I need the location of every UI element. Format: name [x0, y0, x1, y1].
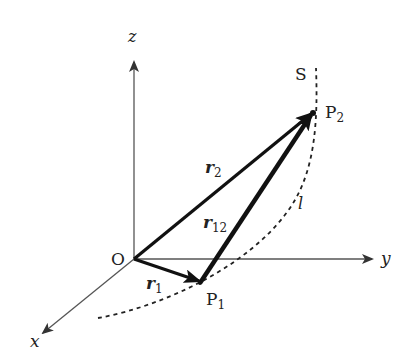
point-p1 [198, 281, 202, 285]
origin-label: O [111, 249, 125, 269]
r12-label: r12 [203, 212, 227, 235]
y-axis-label: y [380, 248, 391, 268]
vector-r12 [200, 115, 311, 283]
curve-s [98, 68, 317, 318]
r2-label: r2 [205, 157, 222, 180]
z-axis-label: z [127, 27, 137, 46]
vector-diagram: z y x O P1 P2 S l r1 r2 r12 [0, 0, 416, 364]
vector-r1 [134, 259, 199, 281]
curve-s-label: S [295, 64, 307, 84]
vector-r2 [134, 114, 311, 259]
path-length-label: l [298, 194, 303, 213]
x-axis [43, 259, 134, 333]
p1-label: P1 [206, 289, 225, 312]
point-p2 [310, 110, 316, 116]
x-axis-label: x [30, 331, 40, 351]
p2-label: P2 [325, 102, 344, 125]
r1-label: r1 [146, 273, 163, 296]
